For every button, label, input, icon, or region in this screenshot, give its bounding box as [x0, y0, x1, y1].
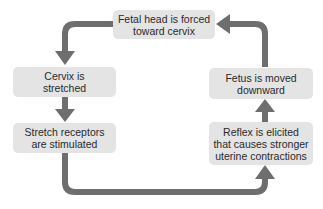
node-line: Fetal head is forced [118, 13, 210, 25]
node-line: that causes stronger [213, 138, 308, 150]
node-reflex: Reflex is elicited that causes stronger … [209, 122, 313, 165]
node-fetus: Fetus is moved downward [209, 68, 313, 99]
node-line: are stimulated [32, 138, 98, 150]
node-line: Stretch receptors [25, 126, 105, 138]
arrow-cervix-to-receptors [55, 97, 75, 122]
node-fetal-head: Fetal head is forced toward cervix [113, 10, 215, 39]
node-line: Cervix is [44, 70, 84, 82]
node-line: Fetus is moved [225, 72, 296, 84]
arrow-fetus-to-fetal-head [216, 14, 265, 67]
arrow-reflex-to-fetus [255, 99, 275, 122]
arrow-fetal-head-to-cervix [55, 24, 113, 65]
feedback-loop-diagram: Fetal head is forced toward cervix Cervi… [0, 0, 323, 209]
node-line: stretched [43, 82, 86, 94]
node-line: downward [237, 84, 285, 96]
node-line: toward cervix [133, 25, 195, 37]
node-receptors: Stretch receptors are stimulated [13, 123, 116, 153]
node-line: Reflex is elicited [223, 126, 299, 138]
node-line: uterine contractions [215, 150, 307, 162]
node-cervix: Cervix is stretched [13, 67, 116, 97]
